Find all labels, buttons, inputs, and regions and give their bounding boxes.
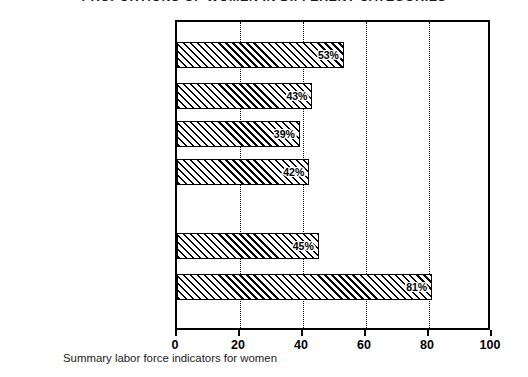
tick-label-0: 0 — [172, 338, 179, 352]
bar: 53% — [177, 42, 344, 68]
bar: 42% — [177, 159, 309, 185]
bar-value-label: 81% — [406, 282, 427, 293]
chart-figure: PROPORTIONS OF WOMEN IN DIFFERENT CATEGO… — [0, 0, 528, 377]
bar-value-label: 42% — [283, 167, 304, 178]
bar: 43% — [177, 83, 312, 109]
plot-area: 53%43%39%42%45%81% — [175, 20, 490, 330]
tick-label-80: 80 — [420, 338, 434, 352]
bar-value-label: 43% — [286, 91, 307, 102]
bar-row: 53% — [177, 42, 492, 68]
tick-mark-80 — [427, 330, 429, 336]
bar: 81% — [177, 274, 432, 300]
chart-caption: Summary labor force indicators for women — [0, 352, 340, 364]
tick-label-40: 40 — [294, 338, 308, 352]
bar-row: 42% — [177, 159, 492, 185]
tick-mark-100 — [490, 330, 492, 336]
plot-inner: 53%43%39%42%45%81% — [177, 22, 488, 328]
tick-label-60: 60 — [357, 338, 371, 352]
tick-mark-20 — [238, 330, 240, 336]
bar: 39% — [177, 121, 300, 147]
tick-label-20: 20 — [231, 338, 245, 352]
tick-mark-40 — [301, 330, 303, 336]
tick-mark-60 — [364, 330, 366, 336]
bar-value-label: 45% — [293, 241, 314, 252]
bar-row: 45% — [177, 233, 492, 259]
bar-row: 39% — [177, 121, 492, 147]
chart-title: PROPORTIONS OF WOMEN IN DIFFERENT CATEGO… — [0, 0, 528, 4]
bar-value-label: 53% — [318, 50, 339, 61]
bar-row: 43% — [177, 83, 492, 109]
bar-row: 81% — [177, 274, 492, 300]
tick-mark-0 — [175, 330, 177, 336]
bar-value-label: 39% — [274, 129, 295, 140]
bar: 45% — [177, 233, 319, 259]
tick-label-100: 100 — [480, 338, 501, 352]
